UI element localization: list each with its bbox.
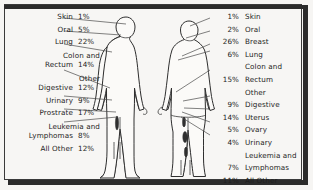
female-label-column: 1% Skin 2% Oral 26% Breast 6% Lung Colon… bbox=[213, 13, 309, 189]
label-row-colon-male: Colon and Rectum 14% bbox=[8, 51, 100, 74]
label-percent: 12% bbox=[78, 145, 100, 154]
cancer-incidence-diagram: Skin 1% Oral 5% Lung 22% Colon and Rectu… bbox=[0, 0, 313, 190]
label-percent: 9% bbox=[213, 101, 245, 110]
male-label-column: Skin 1% Oral 5% Lung 22% Colon and Rectu… bbox=[8, 13, 100, 158]
label-text-line2: Lymphomas bbox=[245, 164, 289, 173]
label-text: Urinary bbox=[46, 97, 78, 106]
label-row-leukemia-male: Leukemia and Lymphomas 8% bbox=[8, 122, 100, 145]
label-percent: 5% bbox=[78, 26, 100, 35]
label-percent: 22% bbox=[78, 38, 100, 47]
label-row-all-other-female: 11% All Other bbox=[213, 177, 309, 190]
label-percent: 9% bbox=[78, 97, 100, 106]
label-percent: 11% bbox=[213, 177, 245, 186]
label-percent: 4% bbox=[213, 139, 245, 148]
label-text: Lung bbox=[245, 51, 263, 60]
label-text: Uterus bbox=[245, 114, 269, 123]
label-text-line1: Other bbox=[245, 89, 266, 98]
label-percent: 12% bbox=[78, 84, 100, 93]
label-text: Oral bbox=[245, 26, 260, 35]
male-figure bbox=[93, 17, 147, 178]
label-row-breast-female: 26% Breast bbox=[213, 38, 309, 51]
label-text-line2: Lymphomas bbox=[29, 132, 78, 141]
label-text-line2: Rectum bbox=[245, 76, 273, 85]
label-percent: 14% bbox=[213, 114, 245, 123]
label-percent: 1% bbox=[78, 13, 100, 22]
label-percent: 26% bbox=[213, 38, 245, 47]
label-text-line1: Colon and bbox=[245, 63, 282, 72]
label-row-urinary-female: 4% Urinary bbox=[213, 139, 309, 152]
label-text: Lung bbox=[55, 38, 78, 47]
label-text-line1: Leukemia and bbox=[245, 152, 297, 161]
label-text: Skin bbox=[57, 13, 78, 22]
label-row-skin-male: Skin 1% bbox=[8, 13, 100, 26]
label-row-all-other-male: All Other 12% bbox=[8, 145, 100, 158]
label-row-other-digestive-male: Other Digestive 12% bbox=[8, 74, 100, 97]
label-percent: 2% bbox=[213, 26, 245, 35]
label-text: All Other bbox=[245, 177, 278, 186]
label-text: Oral bbox=[58, 26, 78, 35]
label-percent: 5% bbox=[213, 126, 245, 135]
label-text: All Other bbox=[40, 145, 78, 154]
label-text-line2: Rectum bbox=[45, 61, 78, 70]
label-percent: 15% bbox=[213, 76, 245, 85]
label-text-line2: Digestive bbox=[245, 101, 280, 110]
label-percent: 7% bbox=[213, 164, 245, 173]
label-row-skin-female: 1% Skin bbox=[213, 13, 309, 26]
label-text: Skin bbox=[245, 13, 261, 22]
label-percent: 14% bbox=[78, 61, 100, 70]
label-row-lung-male: Lung 22% bbox=[8, 38, 100, 51]
label-text-line2: Digestive bbox=[38, 84, 78, 93]
label-text: Breast bbox=[245, 38, 269, 47]
label-row-leukemia-female: Leukemia and 7% Lymphomas bbox=[213, 152, 309, 177]
label-percent: 17% bbox=[78, 109, 100, 118]
label-text: Urinary bbox=[245, 139, 272, 148]
label-row-colon-female: Colon and 15% Rectum bbox=[213, 63, 309, 88]
label-row-other-digestive-female: Other 9% Digestive bbox=[213, 89, 309, 114]
label-row-prostrate-male: Prostrate 17% bbox=[8, 109, 100, 122]
label-percent: 1% bbox=[213, 13, 245, 22]
label-percent: 6% bbox=[213, 51, 245, 60]
label-percent: 8% bbox=[78, 132, 100, 141]
label-text: Ovary bbox=[245, 126, 267, 135]
female-figure bbox=[158, 21, 215, 177]
label-text: Prostrate bbox=[40, 109, 78, 118]
